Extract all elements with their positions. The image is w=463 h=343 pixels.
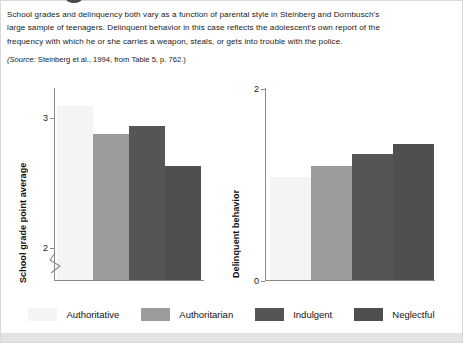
legend-label: Indulgent	[293, 309, 332, 320]
legend-swatch	[354, 308, 383, 321]
bottom-strip	[1, 333, 462, 342]
tick-mark	[50, 118, 54, 119]
bar-indulgent	[352, 154, 393, 280]
legend-label: Neglectful	[392, 309, 434, 320]
caption-block: School grades and delinquency both vary …	[7, 8, 455, 64]
bar-neglectful	[393, 144, 434, 280]
legend-label: Authoritative	[66, 309, 119, 320]
y-axis-title-left: School grade point average	[18, 105, 28, 283]
legend-label: Authoritarian	[179, 309, 233, 320]
legend-swatch	[255, 308, 284, 321]
source-citation: (Source: Steinberg et al., 1994, from Ta…	[7, 55, 455, 64]
bar-authoritative	[270, 177, 311, 280]
bar-group-right	[266, 88, 435, 280]
axis-break-icon	[48, 253, 62, 275]
x-axis-line-right	[265, 280, 435, 281]
plot-area-right: 02	[265, 88, 435, 281]
tick-label: 0	[254, 276, 259, 286]
tick-label: 2	[43, 243, 48, 253]
legend-item-authoritative: Authoritative	[28, 308, 119, 321]
y-axis-title-right: Delinquent behavior	[231, 108, 241, 278]
bar-neglectful	[165, 166, 201, 280]
legend-item-authoritarian: Authoritarian	[141, 308, 233, 321]
chart-delinquent-behavior: Delinquent behavior 02	[225, 88, 455, 288]
x-axis-line-left	[54, 280, 204, 281]
caption-line-2: large sample of teenagers. Delinquent be…	[7, 21, 455, 34]
tick-label: 2	[254, 84, 259, 94]
tick-mark	[261, 89, 265, 90]
chart-school-grades: School grade point average 23	[8, 88, 213, 288]
legend-item-indulgent: Indulgent	[255, 308, 332, 321]
caption-line-3: frequency with which he or she carries a…	[7, 35, 455, 48]
bar-authoritarian	[93, 134, 129, 280]
legend-swatch	[141, 308, 170, 321]
cropped-marker-icon	[66, 0, 82, 3]
bar-indulgent	[129, 126, 165, 280]
legend-item-neglectful: Neglectful	[354, 308, 434, 321]
tick-mark	[50, 248, 54, 249]
legend-swatch	[28, 308, 57, 321]
source-text: Steinberg et al., 1994, from Table 5, p.…	[36, 55, 186, 64]
tick-label: 3	[43, 113, 48, 123]
tick-mark	[261, 281, 265, 282]
chart-legend: AuthoritativeAuthoritarianIndulgentNegle…	[0, 300, 463, 328]
plot-area-left: 23	[54, 88, 204, 281]
bar-group-left	[55, 88, 204, 280]
bar-authoritative	[57, 106, 93, 280]
source-label: (Source:	[7, 55, 36, 64]
caption-line-1: School grades and delinquency both vary …	[7, 8, 455, 21]
figure-panel: School grades and delinquency both vary …	[0, 0, 463, 343]
bar-authoritarian	[311, 166, 352, 280]
